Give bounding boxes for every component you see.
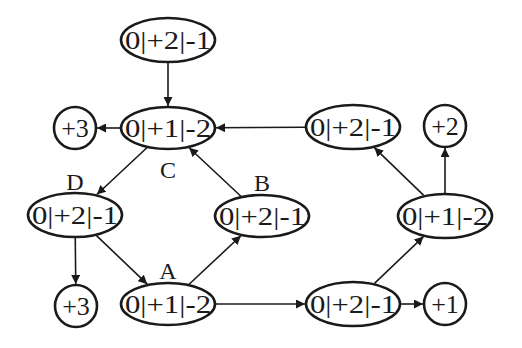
node-A: 0|+1|-2 bbox=[121, 283, 215, 325]
node-R2: 0|+1|-2 bbox=[398, 194, 492, 238]
node-R1: 0|+2|-1 bbox=[306, 105, 400, 149]
node-out_R1: +2 bbox=[424, 105, 466, 147]
edge-A-to-B bbox=[189, 236, 241, 284]
diagram-svg: 0|+2|-10|+1|-2+30|+2|-1+30|+1|-20|+2|-10… bbox=[0, 0, 522, 348]
node-R3: 0|+2|-1 bbox=[306, 282, 400, 326]
node-label: +1 bbox=[431, 290, 459, 319]
node-label: +3 bbox=[62, 292, 90, 321]
edge-D-to-A bbox=[96, 236, 147, 285]
edge-B-to-C bbox=[189, 148, 241, 196]
node-label: 0|+1|-2 bbox=[125, 114, 211, 143]
state-diagram: 0|+2|-10|+1|-2+30|+2|-1+30|+1|-20|+2|-10… bbox=[0, 0, 522, 348]
edge-C-to-D bbox=[97, 148, 147, 195]
edge-D-to-out_D bbox=[75, 238, 76, 284]
node-label: 0|+2|-1 bbox=[310, 290, 396, 319]
node-label: +2 bbox=[431, 112, 459, 141]
edge-R3-to-R2 bbox=[374, 237, 423, 284]
node-out_D: +3 bbox=[55, 285, 97, 327]
node-label: 0|+2|-1 bbox=[219, 202, 305, 231]
node-top: 0|+2|-1 bbox=[121, 18, 215, 62]
node-B: 0|+2|-1 bbox=[215, 195, 309, 237]
node-tag-C: C bbox=[160, 157, 176, 183]
node-C: 0|+1|-2 bbox=[121, 107, 215, 149]
edge-R2-to-R1 bbox=[374, 148, 423, 196]
node-label: 0|+2|-1 bbox=[125, 26, 211, 55]
node-out_C: +3 bbox=[54, 107, 96, 149]
node-tag-A: A bbox=[159, 258, 177, 284]
node-label: 0|+1|-2 bbox=[125, 290, 211, 319]
node-tag-D: D bbox=[66, 169, 83, 195]
node-label: 0|+2|-1 bbox=[32, 201, 118, 230]
node-out_R3: +1 bbox=[424, 283, 466, 325]
node-label: 0|+2|-1 bbox=[310, 113, 396, 142]
node-D: 0|+2|-1 bbox=[28, 193, 122, 237]
node-label: +3 bbox=[61, 114, 89, 143]
node-tag-B: B bbox=[254, 170, 270, 196]
node-label: 0|+1|-2 bbox=[402, 202, 488, 231]
